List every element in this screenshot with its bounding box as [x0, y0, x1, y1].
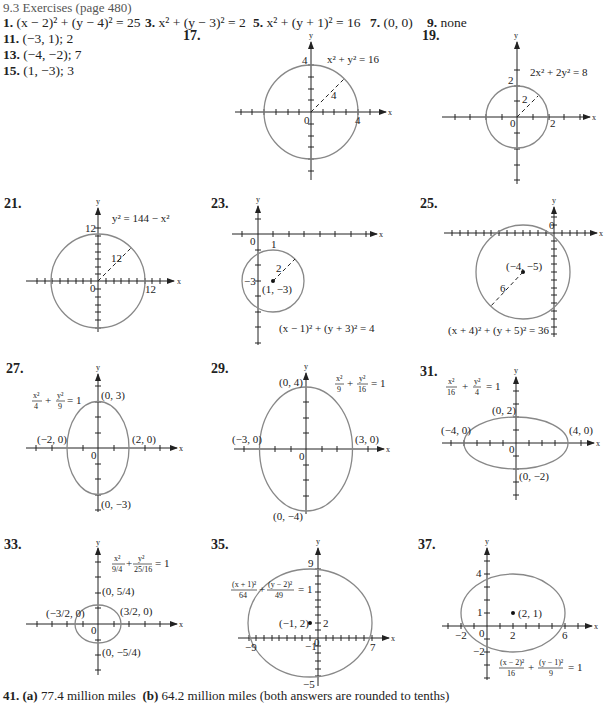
svg-text:y: y [552, 196, 556, 205]
svg-text:0: 0 [250, 235, 256, 247]
svg-text:x: x [596, 439, 600, 448]
graph-25: 25. y x (−4, −5) 6 0 (x + 4)² + (y + 5)²… [420, 196, 603, 337]
svg-text:1: 1 [477, 606, 483, 618]
svg-text:(x + 1)²: (x + 1)² [232, 580, 257, 589]
svg-text:9: 9 [308, 557, 314, 569]
svg-text:y: y [309, 31, 313, 40]
svg-text:7: 7 [370, 641, 376, 653]
svg-text:(2, 0): (2, 0) [132, 433, 156, 446]
svg-text:2: 2 [276, 262, 282, 274]
svg-text:x: x [179, 444, 183, 453]
svg-text:9: 9 [58, 402, 62, 411]
svg-text:37.: 37. [418, 537, 436, 552]
svg-text:6: 6 [562, 629, 568, 641]
svg-text:y²: y² [474, 377, 481, 386]
svg-text:6: 6 [500, 282, 506, 294]
graph-35: 35. y x 9 −5 2 (−1, 2) −9 7 −1 0 (x + 1)… [211, 537, 395, 690]
svg-text:+: + [462, 380, 468, 392]
svg-text:(0, −3): (0, −3) [101, 498, 131, 511]
svg-text:(−3/2, 0): (−3/2, 0) [46, 607, 85, 620]
svg-text:9: 9 [337, 385, 341, 394]
svg-text:x² + y² = 16: x² + y² = 16 [327, 53, 380, 65]
svg-text:−2: −2 [455, 629, 467, 641]
svg-text:x: x [388, 108, 392, 117]
svg-text:= 1: = 1 [486, 380, 500, 392]
svg-text:(y − 2)²: (y − 2)² [268, 580, 293, 589]
svg-text:4: 4 [302, 54, 308, 66]
svg-text:(0, −5/4): (0, −5/4) [102, 646, 141, 659]
svg-text:x: x [386, 445, 390, 454]
svg-text:(x − 2)²: (x − 2)² [500, 658, 525, 667]
svg-text:y: y [256, 195, 260, 204]
svg-text:x: x [391, 634, 395, 643]
svg-text:(−2, 0): (−2, 0) [37, 433, 67, 446]
svg-text:+: + [347, 377, 353, 389]
svg-text:y: y [485, 537, 489, 546]
svg-text:(2, 1): (2, 1) [518, 607, 542, 620]
graph-19: 19. y x 2x² + 2y² = 8 2 2 2 0 [422, 28, 596, 184]
svg-text:y: y [316, 537, 320, 546]
svg-text:y² = 144 − x²: y² = 144 − x² [112, 212, 170, 224]
svg-text:4: 4 [475, 388, 479, 397]
svg-text:(0, −2): (0, −2) [519, 470, 549, 483]
graph-33: 33. y x x² 9/4 + y² 25/16 = 1 (0, 5/4) (… [4, 537, 183, 675]
svg-text:(0, 3): (0, 3) [101, 389, 125, 402]
svg-text:(−3, 0): (−3, 0) [232, 433, 262, 446]
svg-text:y²: y² [359, 374, 366, 383]
svg-text:0: 0 [90, 282, 96, 294]
svg-text:+: + [45, 394, 51, 406]
svg-text:2: 2 [508, 74, 514, 86]
graph-17: 17. y x x² + y² = 16 4 4 4 0 [183, 28, 392, 180]
svg-text:25.: 25. [420, 196, 438, 211]
svg-text:x: x [379, 230, 383, 239]
svg-text:2: 2 [550, 117, 556, 129]
svg-text:0: 0 [549, 219, 555, 231]
svg-text:y: y [304, 362, 308, 371]
svg-text:(x − 1)² + (y + 3)² = 4: (x − 1)² + (y + 3)² = 4 [279, 322, 375, 335]
svg-text:49: 49 [275, 591, 283, 600]
svg-text:4: 4 [331, 89, 337, 101]
svg-text:= 1: = 1 [298, 583, 312, 595]
svg-text:y: y [514, 31, 518, 40]
svg-text:y: y [96, 197, 100, 206]
svg-text:+: + [126, 557, 132, 569]
svg-text:y²: y² [57, 391, 64, 400]
svg-text:12: 12 [145, 283, 156, 295]
svg-text:(−4, 0): (−4, 0) [441, 424, 471, 437]
graph-29: 29. y x (0, 4) (0, −4) (−3, 0) (3, 0) 0 … [211, 361, 390, 523]
svg-text:4: 4 [355, 114, 361, 126]
svg-text:+: + [259, 583, 265, 595]
svg-text:y: y [514, 366, 518, 375]
svg-text:x²: x² [114, 554, 121, 563]
svg-text:12: 12 [111, 252, 122, 264]
svg-text:17.: 17. [183, 28, 201, 43]
svg-text:(0, −4): (0, −4) [273, 510, 303, 523]
svg-text:16: 16 [507, 669, 515, 678]
svg-text:+: + [528, 661, 534, 673]
svg-text:−2: −2 [473, 645, 485, 657]
graphs-canvas: 17. y x x² + y² = 16 4 4 4 0 19. y [0, 0, 605, 709]
svg-text:0: 0 [479, 627, 485, 639]
svg-text:(0, 5/4): (0, 5/4) [102, 585, 135, 598]
graph-31: 31. y x x² 16 + y² 4 = 1 (0, 2) (0, −2) … [420, 364, 600, 500]
svg-text:(x + 4)² + (y + 5)² = 36: (x + 4)² + (y + 5)² = 36 [448, 324, 550, 337]
svg-text:0: 0 [314, 636, 320, 648]
svg-text:9/4: 9/4 [112, 565, 122, 574]
svg-text:= 1: = 1 [67, 394, 81, 406]
svg-text:y: y [96, 538, 100, 547]
svg-text:x: x [179, 620, 183, 629]
svg-text:(0, 4): (0, 4) [279, 376, 303, 389]
svg-text:(3/2, 0): (3/2, 0) [120, 605, 153, 618]
svg-text:x: x [177, 277, 181, 286]
svg-text:4: 4 [476, 567, 482, 579]
svg-text:x: x [599, 229, 603, 238]
svg-text:x²: x² [336, 374, 343, 383]
svg-text:2: 2 [323, 617, 329, 629]
svg-text:25/16: 25/16 [134, 565, 152, 574]
svg-text:x: x [594, 622, 598, 631]
svg-text:= 1: = 1 [155, 557, 169, 569]
svg-text:12: 12 [85, 222, 96, 234]
svg-text:9: 9 [549, 669, 553, 678]
svg-text:= 1: = 1 [371, 377, 385, 389]
graph-21: 21. y x y² = 144 − x² 12 12 12 0 [4, 196, 181, 332]
